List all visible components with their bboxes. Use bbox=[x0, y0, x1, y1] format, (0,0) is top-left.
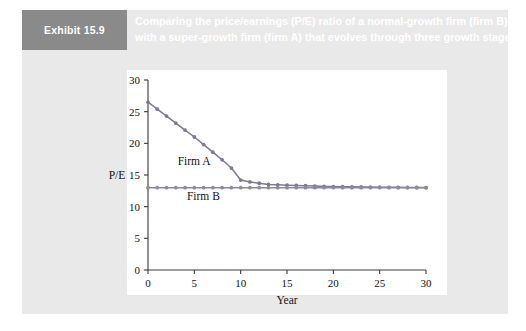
y-axis-tick-label: 15 bbox=[129, 169, 141, 181]
data-point bbox=[285, 186, 289, 190]
data-point bbox=[350, 186, 354, 190]
x-axis-tick-label: 15 bbox=[282, 277, 294, 289]
data-point bbox=[165, 186, 169, 190]
data-point bbox=[359, 186, 363, 190]
chart-area: 051015202530051015202530P/EYearFirm AFir… bbox=[22, 46, 508, 314]
y-axis-tick-label: 25 bbox=[129, 106, 141, 118]
exhibit-caption-line-1: Comparing the price/earnings (P/E) ratio… bbox=[135, 14, 505, 30]
data-point bbox=[183, 128, 187, 132]
data-point bbox=[146, 100, 150, 104]
data-point bbox=[294, 186, 298, 190]
data-point bbox=[415, 186, 419, 190]
data-point bbox=[369, 186, 373, 190]
data-point bbox=[257, 186, 261, 190]
page-root: Exhibit 15.9 Comparing the price/earning… bbox=[0, 0, 526, 331]
y-axis-tick-label: 30 bbox=[129, 74, 141, 86]
data-point bbox=[155, 107, 159, 111]
data-point bbox=[220, 158, 224, 162]
data-point bbox=[239, 186, 243, 190]
y-axis-tick-label: 20 bbox=[129, 137, 141, 149]
x-axis-tick-label: 5 bbox=[192, 277, 198, 289]
x-axis-tick-label: 0 bbox=[145, 277, 151, 289]
series-label-firm-a: Firm A bbox=[178, 155, 212, 167]
x-axis-tick-label: 25 bbox=[374, 277, 386, 289]
data-point bbox=[248, 180, 252, 184]
data-point bbox=[230, 186, 234, 190]
data-point bbox=[331, 186, 335, 190]
data-point bbox=[322, 186, 326, 190]
data-point bbox=[313, 186, 317, 190]
x-axis-tick-label: 30 bbox=[421, 277, 433, 289]
data-point bbox=[257, 181, 261, 185]
data-point bbox=[239, 178, 243, 182]
y-axis-title: P/E bbox=[109, 169, 126, 181]
data-point bbox=[211, 150, 215, 154]
data-point bbox=[202, 143, 206, 147]
data-point bbox=[192, 135, 196, 139]
data-point bbox=[220, 186, 224, 190]
data-point bbox=[341, 186, 345, 190]
y-axis-tick-label: 10 bbox=[129, 201, 141, 213]
data-point bbox=[304, 186, 308, 190]
data-point bbox=[267, 186, 271, 190]
data-point bbox=[146, 186, 150, 190]
data-point bbox=[183, 186, 187, 190]
data-point bbox=[174, 121, 178, 125]
data-point bbox=[378, 186, 382, 190]
data-point bbox=[396, 186, 400, 190]
exhibit-number-label: Exhibit 15.9 bbox=[44, 24, 105, 36]
data-point bbox=[202, 186, 206, 190]
pe-ratio-line-chart: 051015202530051015202530P/EYearFirm AFir… bbox=[22, 46, 508, 314]
x-axis-tick-label: 10 bbox=[235, 277, 247, 289]
exhibit-panel: Exhibit 15.9 Comparing the price/earning… bbox=[22, 10, 508, 314]
data-point bbox=[192, 186, 196, 190]
exhibit-caption-line-2: with a super-growth firm (firm A) that e… bbox=[135, 30, 505, 46]
exhibit-caption: Comparing the price/earnings (P/E) ratio… bbox=[135, 14, 505, 45]
series-label-firm-b: Firm B bbox=[187, 190, 220, 202]
data-point bbox=[387, 186, 391, 190]
x-axis-tick-label: 20 bbox=[328, 277, 340, 289]
x-axis-title: Year bbox=[276, 294, 297, 306]
exhibit-header: Exhibit 15.9 Comparing the price/earning… bbox=[22, 10, 508, 50]
exhibit-number-badge: Exhibit 15.9 bbox=[22, 10, 127, 50]
data-point bbox=[174, 186, 178, 190]
data-point bbox=[211, 186, 215, 190]
data-point bbox=[165, 114, 169, 118]
y-axis-tick-label: 5 bbox=[135, 232, 141, 244]
data-point bbox=[230, 166, 234, 170]
data-point bbox=[276, 186, 280, 190]
data-point bbox=[248, 186, 252, 190]
y-axis-tick-label: 0 bbox=[135, 264, 141, 276]
data-point bbox=[406, 186, 410, 190]
data-point bbox=[155, 186, 159, 190]
plot-background bbox=[127, 70, 447, 295]
data-point bbox=[424, 186, 428, 190]
